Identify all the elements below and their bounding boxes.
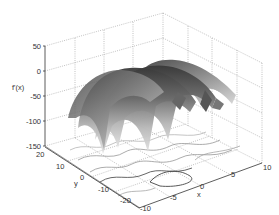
x-tick-label: 5 <box>231 170 235 179</box>
x-tick-label: -5 <box>170 193 177 202</box>
y-tick-label: 0 <box>80 173 84 182</box>
y-tick-label: 20 <box>36 150 44 159</box>
x-tick-label: -10 <box>140 204 151 213</box>
y-tick-label: 10 <box>56 162 64 171</box>
y-axis-label: y <box>74 179 78 188</box>
z-tick-label: 50 <box>33 42 41 51</box>
z-axis: 50 0 -50 -100 -150 f'(x) <box>12 42 45 151</box>
z-axis-label: f'(x) <box>12 83 25 92</box>
y-tick-label: -20 <box>120 196 131 205</box>
surface-plot: 50 0 -50 -100 -150 f'(x) 20 10 0 -10 -20… <box>0 0 279 215</box>
x-axis-label: x <box>197 190 201 199</box>
z-tick-label: -100 <box>26 117 41 126</box>
floor-contours <box>70 132 240 196</box>
z-tick-label: -50 <box>30 92 41 101</box>
y-tick-label: -10 <box>98 185 109 194</box>
x-tick-label: 10 <box>263 163 271 172</box>
z-tick-label: 0 <box>37 67 41 76</box>
